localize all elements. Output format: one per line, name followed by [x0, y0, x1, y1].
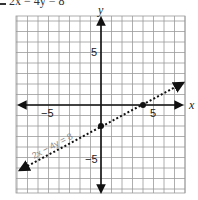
x-tick-label-5: 5	[150, 107, 156, 119]
x-tick-label-neg5: −5	[41, 107, 54, 119]
y-intercept-point	[98, 123, 104, 129]
y-axis-label: y	[97, 3, 104, 17]
line-equation-label: 2x − 4y = 8	[30, 131, 74, 161]
y-tick-label-5: 5	[91, 46, 97, 58]
y-tick-label-neg5: −5	[85, 153, 98, 165]
coordinate-graph: y x −5 5 5 −5 2x − 4y = 8	[0, 0, 198, 200]
x-axis-label: x	[188, 98, 195, 112]
x-intercept-point	[140, 102, 146, 108]
